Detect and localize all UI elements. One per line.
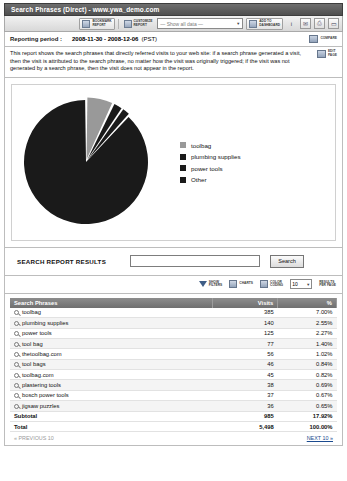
magnifier-icon (14, 393, 19, 398)
cell-phrase[interactable]: tool bag (10, 338, 212, 348)
cell-phrase[interactable]: thetoolbag.com (10, 349, 212, 359)
magnifier-icon (14, 404, 19, 409)
cell-phrase[interactable]: toolbag.com (10, 370, 212, 380)
compare-icon (309, 35, 318, 43)
pie-chart-svg (16, 92, 166, 232)
color-coding-button[interactable]: COLOR CODING (260, 280, 283, 288)
cell-visits: 45 (212, 370, 277, 380)
cell-phrase[interactable]: bosch power tools (10, 390, 212, 400)
column-header-phrases[interactable]: Search Phrases (10, 298, 212, 308)
magnifier-icon (14, 331, 19, 336)
cell-percent: 2.55% (278, 318, 337, 328)
toolbar-divider (118, 19, 119, 29)
table-row: bosch power tools370.67% (10, 390, 337, 400)
cell-percent: 1.02% (278, 349, 337, 359)
legend-item: toolbag (180, 142, 241, 149)
cell-phrase[interactable]: power tools (10, 328, 212, 338)
cell-visits: 77 (212, 338, 277, 348)
cell-percent: 7.00% (278, 308, 337, 318)
edit-page-button[interactable]: EDIT PAGE (317, 50, 337, 58)
table-body: toolbag3857.00%plumbing supplies1402.55%… (10, 308, 337, 432)
table-head: Search Phrases Visits % (10, 298, 337, 308)
table-pagination: « PREVIOUS 10 NEXT 10 » (10, 432, 337, 445)
bookmark-report-button[interactable]: BOOKMARK REPORT (79, 18, 114, 30)
charts-button[interactable]: CHARTS (229, 280, 253, 288)
bookmark-icon (82, 20, 90, 28)
total-row: Total5,498100.00% (10, 421, 337, 431)
legend-label: power tools (191, 165, 223, 172)
magnifier-icon (14, 321, 19, 326)
edit-icon (317, 50, 326, 58)
cell-percent: 0.69% (278, 380, 337, 390)
table-row: plumbing supplies1402.55% (10, 318, 337, 328)
show-filters-button[interactable]: SHOW FILTERS (199, 280, 223, 288)
magnifier-icon (14, 383, 19, 388)
cell-visits: 46 (212, 359, 277, 369)
column-header-percent[interactable]: % (278, 298, 337, 308)
legend-swatch (180, 154, 186, 160)
next-page-link[interactable]: NEXT 10 » (307, 435, 333, 441)
color-coding-label: COLOR CODING (270, 281, 283, 288)
pie-chart (16, 92, 166, 232)
chart-legend: toolbag plumbing supplies power tools Ot… (180, 142, 241, 184)
results-per-page-select[interactable]: 10 ▼ (290, 279, 312, 289)
show-filters-label: SHOW FILTERS (209, 281, 223, 288)
report-description-box: This report shows the search phrases tha… (4, 47, 343, 78)
cell-phrase[interactable]: plastering tools (10, 380, 212, 390)
pie-slice (24, 100, 148, 224)
info-icon[interactable]: i (286, 18, 297, 29)
window-title: Search Phrases (Direct) - www.ywa_demo.c… (11, 6, 159, 13)
cell-percent: 0.67% (278, 390, 337, 400)
add-to-dashboard-label: ADD TO DASHBOARD (259, 20, 280, 27)
results-table-panel: Search Phrases Visits % toolbag3857.00%p… (4, 294, 343, 446)
search-button[interactable]: Search (270, 255, 304, 268)
cell-phrase[interactable]: jigsaw puzzles (10, 401, 212, 411)
search-report-panel: SEARCH REPORT RESULTS Search (4, 248, 343, 276)
charts-label: CHARTS (239, 282, 253, 286)
search-report-label: SEARCH REPORT RESULTS (17, 258, 106, 265)
cell-percent: 100.00% (278, 421, 337, 431)
print-icon[interactable]: ▭ (328, 18, 339, 29)
reporting-period-value: 2008-11-30 - 2008-12-06 (72, 36, 138, 42)
cell-percent: 0.82% (278, 370, 337, 380)
data-filter-select[interactable]: — Show all data — ▼ (157, 18, 243, 29)
cell-phrase: Subtotal (10, 411, 212, 421)
cell-percent: 0.84% (278, 359, 337, 369)
customize-report-label: CUSTOMIZE REPORT (134, 20, 153, 27)
previous-page-link[interactable]: « PREVIOUS 10 (14, 435, 54, 441)
reporting-period-label: Reporting period : (10, 36, 62, 42)
magnifier-icon (14, 362, 19, 367)
customize-report-button[interactable]: CUSTOMIZE REPORT (122, 18, 155, 30)
wrench-icon (124, 20, 132, 28)
cell-visits: 385 (212, 308, 277, 318)
edit-page-label: EDIT PAGE (328, 50, 337, 57)
magnifier-icon (14, 352, 19, 357)
cell-phrase[interactable]: tool bags (10, 359, 212, 369)
table-row: jigsaw puzzles360.65% (10, 401, 337, 411)
table-row: power tools1252.27% (10, 328, 337, 338)
data-filter-value: — Show all data — (160, 21, 203, 27)
compare-label: COMPARE (320, 37, 337, 41)
chart-icon (229, 280, 237, 288)
funnel-icon (199, 280, 207, 288)
chart-panel: toolbag plumbing supplies power tools Ot… (4, 78, 343, 248)
cell-visits: 36 (212, 401, 277, 411)
chevron-down-icon: ▼ (306, 282, 310, 287)
cell-phrase[interactable]: toolbag (10, 308, 212, 318)
compare-button[interactable]: COMPARE (309, 35, 337, 43)
add-to-dashboard-button[interactable]: ADD TO DASHBOARD (246, 18, 283, 30)
search-input[interactable] (130, 255, 260, 267)
column-header-visits[interactable]: Visits (212, 298, 277, 308)
table-header-row: Search Phrases Visits % (10, 298, 337, 308)
table-row: thetoolbag.com561.02% (10, 349, 337, 359)
cell-phrase[interactable]: plumbing supplies (10, 318, 212, 328)
cell-percent: 1.40% (278, 338, 337, 348)
email-icon[interactable]: ✉ (300, 18, 311, 29)
cell-visits: 5,498 (212, 421, 277, 431)
magnifier-icon (14, 342, 19, 347)
legend-swatch (180, 177, 186, 183)
legend-swatch (180, 142, 186, 148)
pdf-icon[interactable]: ⎙ (314, 18, 325, 29)
legend-swatch (180, 165, 186, 171)
magnifier-icon (14, 373, 19, 378)
